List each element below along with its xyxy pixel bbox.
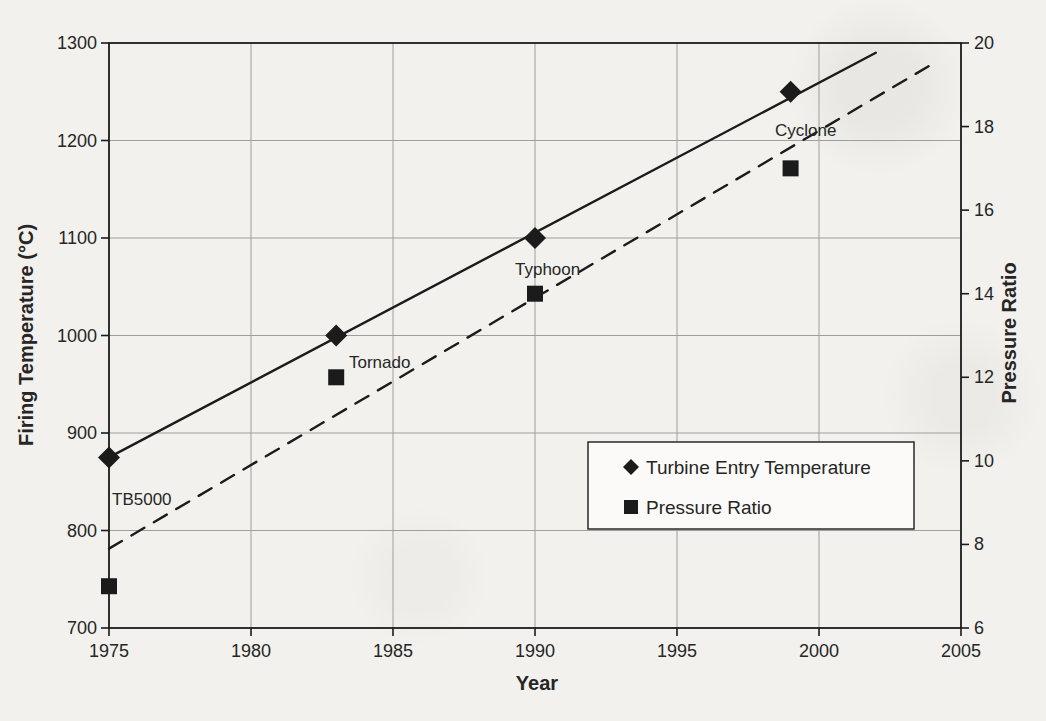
- left-y-tick-label: 1000: [57, 326, 97, 346]
- left-y-tick-label: 700: [67, 618, 97, 638]
- right-y-axis-title: Pressure Ratio: [998, 262, 1020, 403]
- left-y-tick-label: 1300: [57, 33, 97, 53]
- pressure-data-point: [783, 160, 799, 176]
- right-y-tick-label: 10: [974, 451, 994, 471]
- temperature-trendline: [109, 53, 876, 458]
- x-tick-label: 2000: [799, 641, 839, 661]
- x-axis-title: Year: [516, 672, 558, 694]
- right-y-tick-label: 18: [974, 117, 994, 137]
- x-tick-label: 1990: [515, 641, 555, 661]
- temperature-data-point: [98, 446, 120, 468]
- pressure-data-point: [328, 369, 344, 385]
- machine-label: Typhoon: [515, 260, 580, 279]
- right-y-tick-label: 6: [974, 618, 984, 638]
- pressure-data-point: [101, 578, 117, 594]
- x-tick-label: 1975: [89, 641, 129, 661]
- right-y-tick-label: 20: [974, 33, 994, 53]
- dual-axis-scatter-chart: 1975198019851990199520002005700800900100…: [0, 0, 1046, 721]
- x-tick-label: 1995: [657, 641, 697, 661]
- left-y-axis-title: Firing Temperature (°C): [15, 224, 37, 446]
- x-tick-label: 1980: [231, 641, 271, 661]
- temperature-data-point: [780, 81, 802, 103]
- left-y-tick-label: 1100: [58, 228, 97, 248]
- left-y-tick-label: 1200: [57, 131, 97, 151]
- machine-label: Cyclone: [775, 121, 836, 140]
- right-y-tick-label: 12: [974, 367, 994, 387]
- legend: Turbine Entry TemperaturePressure Ratio: [588, 442, 914, 529]
- left-y-tick-label: 900: [67, 423, 97, 443]
- machine-label: Tornado: [349, 353, 410, 372]
- legend-item-label: Turbine Entry Temperature: [646, 457, 871, 478]
- x-tick-label: 1985: [373, 641, 413, 661]
- pressure-data-point: [527, 286, 543, 302]
- right-y-tick-label: 14: [974, 284, 994, 304]
- right-y-tick-label: 8: [974, 534, 984, 554]
- legend-item-label: Pressure Ratio: [646, 497, 772, 518]
- temperature-data-point: [524, 227, 546, 249]
- x-tick-label: 2005: [941, 641, 981, 661]
- axes-and-ticks: 1975198019851990199520002005700800900100…: [57, 33, 994, 661]
- right-y-tick-label: 16: [974, 200, 994, 220]
- legend-square-marker: [624, 500, 638, 514]
- chart-figure: 1975198019851990199520002005700800900100…: [0, 0, 1046, 721]
- machine-label: TB5000: [112, 490, 172, 509]
- left-y-tick-label: 800: [67, 521, 97, 541]
- temperature-data-point: [325, 325, 347, 347]
